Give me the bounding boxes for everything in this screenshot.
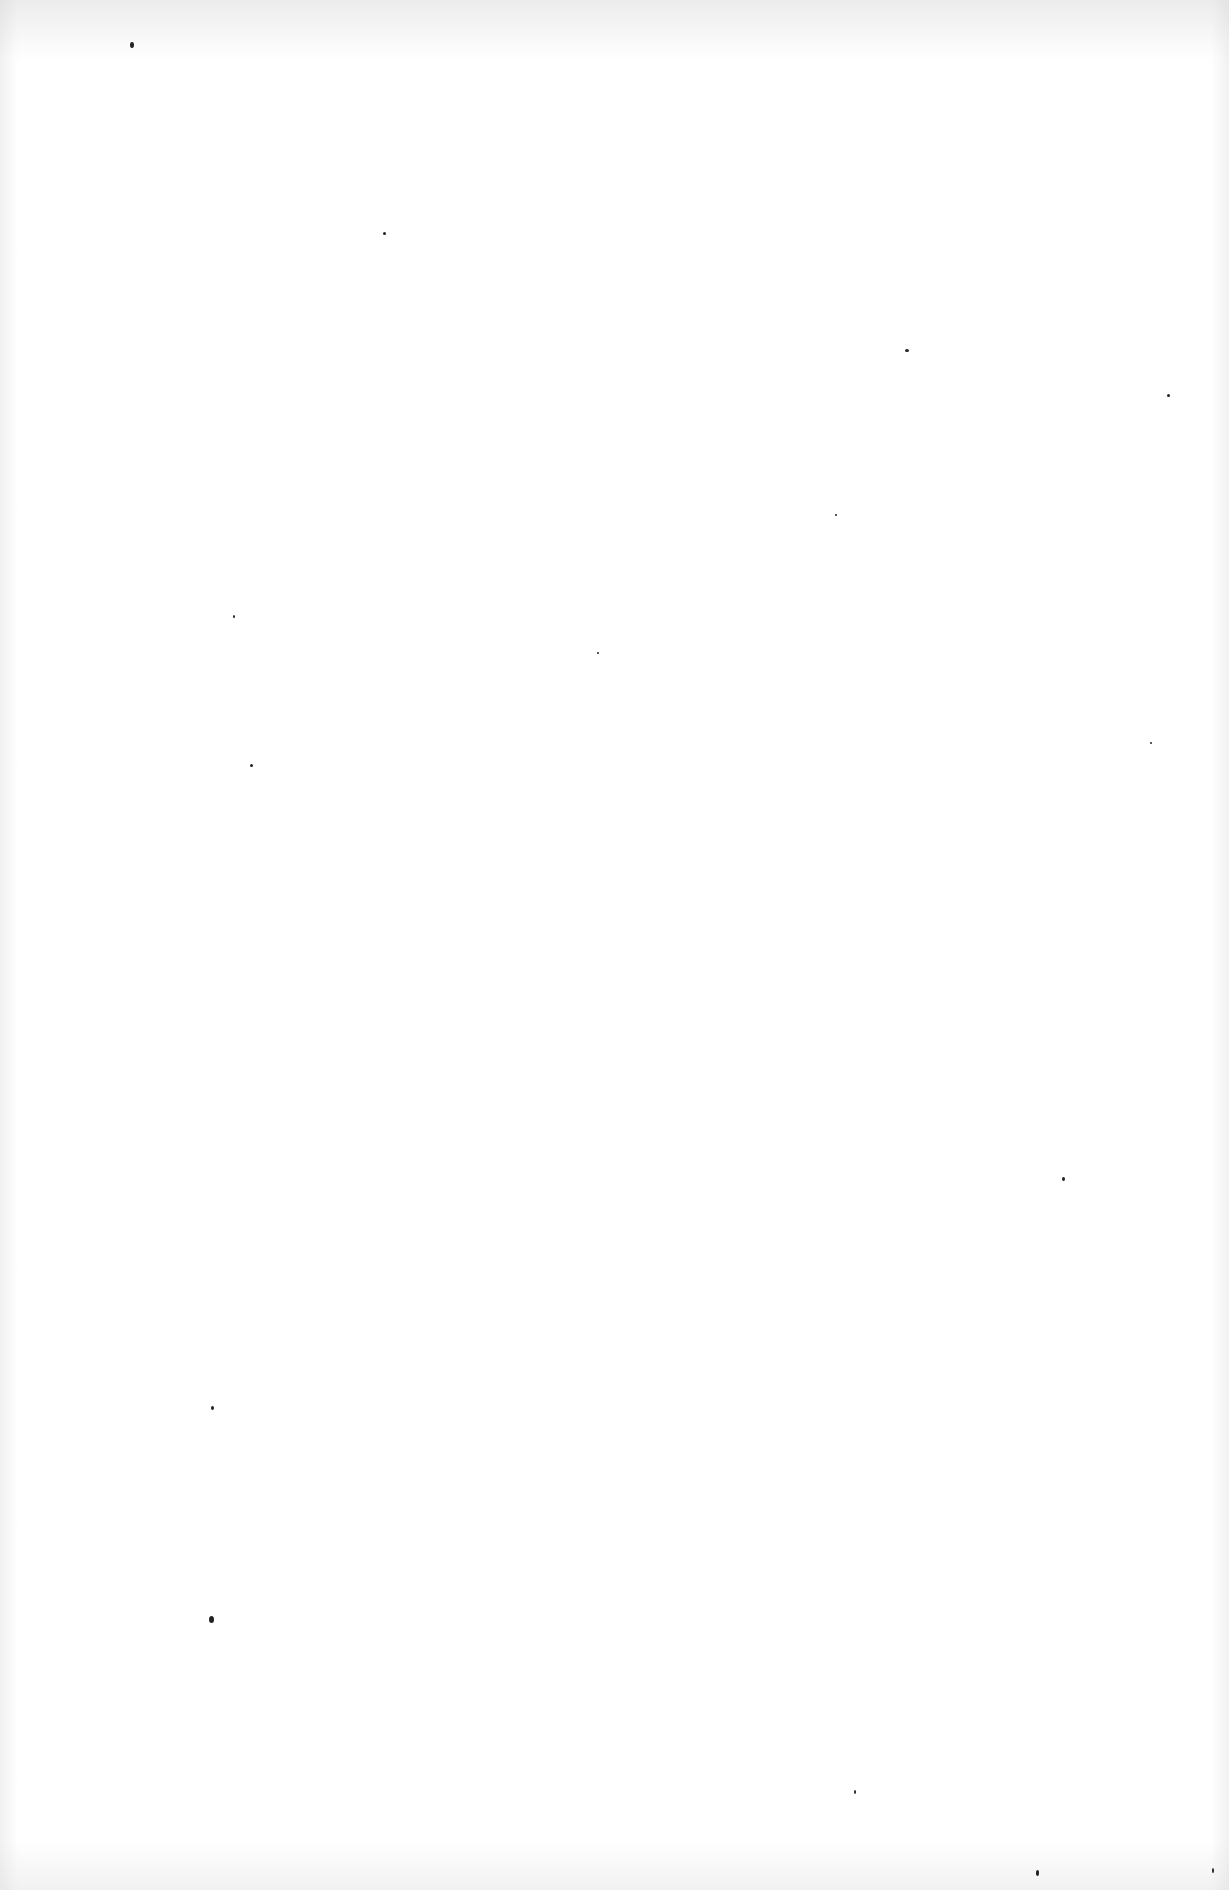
scan-speck [905,349,909,352]
scan-speck [597,652,599,654]
scan-speck [854,1790,856,1794]
scan-speck [835,514,837,516]
scan-speck [1036,1870,1039,1876]
scan-speck [1167,394,1170,397]
scan-speck [383,232,386,235]
blank-scanned-page [0,0,1229,1890]
scan-speck [130,42,134,48]
scan-speck [250,764,253,767]
scan-speck [1062,1177,1065,1181]
scan-speck [209,1616,214,1623]
scan-speck [211,1406,214,1410]
scan-speck [1150,742,1152,744]
scan-speck [233,615,235,618]
scan-speck [1212,1868,1214,1873]
